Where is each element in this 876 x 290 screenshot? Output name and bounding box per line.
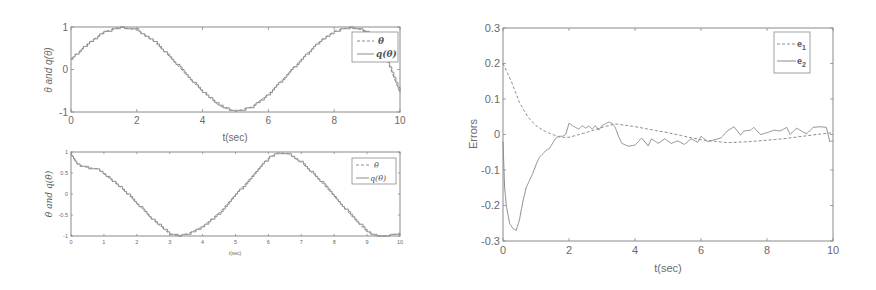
legend: e1 e2 — [774, 32, 810, 73]
y-tick-label: 0.2 — [485, 57, 500, 69]
x-tick-label: 9 — [366, 239, 369, 245]
x-tick-label: 3 — [168, 239, 171, 245]
y-tick-label: -1 — [63, 233, 68, 239]
y-tick-label: 0.3 — [485, 22, 500, 34]
y-axis-label: Errors — [467, 119, 479, 149]
plot-frame — [71, 27, 400, 112]
y-axis-label: θ̇ and q(θ̇) — [44, 170, 54, 217]
y-axis-label: θ and q(θ) — [43, 47, 54, 92]
x-tick-label: 0 — [69, 239, 72, 245]
x-axis-label: t(sec) — [223, 132, 248, 143]
x-tick-label: 10 — [394, 115, 406, 126]
legend: θ̇ q(θ̇) — [352, 158, 396, 184]
x-tick-label: 6 — [267, 239, 270, 245]
x-tick-label: 10 — [827, 244, 839, 256]
x-tick-label: 6 — [266, 115, 272, 126]
legend: θ q(θ) — [352, 32, 398, 62]
y-tick-label: 0.5 — [60, 170, 68, 176]
x-tick-label: 8 — [331, 115, 337, 126]
x-tick-label: 4 — [200, 115, 206, 126]
x-axis-label: t(sec) — [654, 262, 682, 274]
x-tick-label: 6 — [698, 244, 704, 256]
x-tick-label: 4 — [632, 244, 638, 256]
x-tick-label: 1 — [102, 239, 105, 245]
y-tick-label: -1 — [59, 107, 68, 118]
y-tick-label: 0 — [62, 64, 68, 75]
errors-plot: 0246810-0.3-0.2-0.100.10.20.3 t(sec) Err… — [467, 22, 839, 274]
x-tick-label: 0 — [500, 244, 506, 256]
x-tick-label: 2 — [134, 115, 140, 126]
x-tick-label: 0 — [68, 115, 74, 126]
x-tick-label: 4 — [201, 239, 204, 245]
y-tick-label: 0 — [65, 191, 68, 197]
theta-subplot: 0246810-101 t(sec) θ and q(θ) θ q(θ) — [43, 22, 406, 144]
x-tick-label: 2 — [566, 244, 572, 256]
y-tick-label: -0.3 — [481, 235, 500, 247]
y-tick-label: 0 — [494, 128, 500, 140]
y-tick-label: 0.1 — [485, 93, 500, 105]
theta-dot-subplot: 012345678910-1-0.500.51 t(sec) θ̇ and q(… — [44, 149, 403, 256]
legend-label-q-theta: q(θ) — [376, 49, 397, 59]
legend-label-q-theta-dot: q(θ̇) — [370, 174, 386, 183]
y-tick-label: 1 — [62, 22, 68, 33]
x-tick-label: 8 — [764, 244, 770, 256]
x-tick-label: 8 — [333, 239, 336, 245]
x-axis-label: t(sec) — [229, 250, 242, 256]
y-tick-label: -0.1 — [481, 164, 500, 176]
figure-canvas: 0246810-101 t(sec) θ and q(θ) θ q(θ) 012… — [0, 0, 876, 290]
y-tick-label: -0.2 — [481, 199, 500, 211]
x-tick-label: 2 — [135, 239, 138, 245]
legend-label-theta-dot: θ̇ — [374, 161, 379, 170]
legend-label-theta: θ — [378, 36, 384, 46]
x-tick-label: 10 — [397, 239, 403, 245]
x-tick-label: 7 — [300, 239, 303, 245]
x-tick-label: 5 — [234, 239, 237, 245]
y-tick-label: 1 — [65, 149, 68, 155]
y-tick-label: -0.5 — [59, 212, 68, 218]
